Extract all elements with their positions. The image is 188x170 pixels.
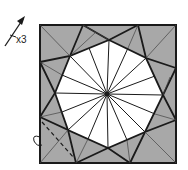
origami-diagram: x3 — [0, 0, 188, 170]
crease-pattern — [0, 0, 188, 170]
center-point — [105, 92, 110, 97]
repeat-label: x3 — [16, 34, 27, 45]
